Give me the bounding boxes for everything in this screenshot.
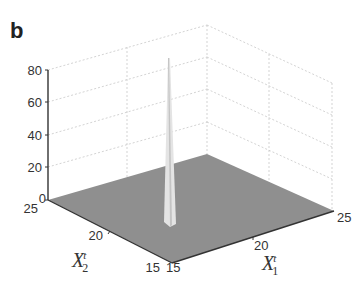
surface-plot: 80 60 40 20 0 25 20 15 15 20 25 Xt2 Xt1 xyxy=(0,0,357,286)
x2-tick-20: 20 xyxy=(89,228,103,243)
x1-tick-20: 20 xyxy=(254,238,268,253)
x2-tick-25: 25 xyxy=(24,201,38,216)
x1-tick-25: 25 xyxy=(337,210,351,225)
x1-axis-label: Xt1 xyxy=(261,252,278,278)
z-tick-20: 20 xyxy=(28,160,42,175)
x2-tick-15: 15 xyxy=(146,260,160,275)
surface-floor xyxy=(48,154,334,263)
z-tick-labels: 80 60 40 20 0 xyxy=(28,63,46,206)
z-tick-0: 0 xyxy=(39,191,46,206)
z-tick-40: 40 xyxy=(28,128,42,143)
x1-tick-15: 15 xyxy=(166,260,180,275)
x2-axis-label: Xt2 xyxy=(71,249,88,275)
z-tick-80: 80 xyxy=(28,63,42,78)
z-tick-60: 60 xyxy=(28,95,42,110)
surface-peak xyxy=(164,58,176,227)
